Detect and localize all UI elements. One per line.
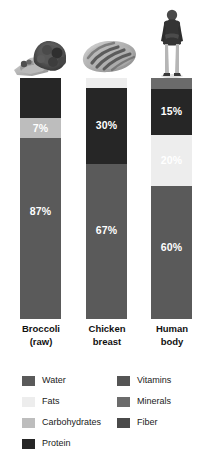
chart-legend: Water Fats Carbohydrates Protein Vitamin… [0,370,208,462]
category-label-line2: (raw) [8,335,74,348]
legend-item-fiber: Fiber [117,412,171,433]
legend-swatch-minerals [117,397,130,407]
category-label-line2: body [139,335,205,348]
bar-human-body: 15% 20% 60% [151,78,192,319]
legend-label: Minerals [137,397,171,406]
legend-swatch-water [22,376,35,386]
segment-label: 7% [33,123,49,134]
segment-label: 15% [161,106,183,117]
category-label-chicken-breast: Chicken breast [74,322,140,348]
segment-label: 87% [30,206,52,217]
legend-item-carbohydrates: Carbohydrates [22,412,101,433]
segment-broccoli-water: 87% [20,138,61,319]
legend-column-right: Vitamins Minerals Fiber [117,370,171,433]
segment-label: 67% [96,225,118,236]
legend-label: Water [42,376,66,385]
legend-swatch-carbohydrates [22,418,35,428]
legend-item-vitamins: Vitamins [117,370,171,391]
segment-chicken-water: 67% [86,164,127,319]
segment-human-protein: 15% [151,89,192,135]
legend-swatch-vitamins [117,376,130,386]
segment-label: 30% [96,120,118,131]
legend-label: Protein [42,439,71,448]
category-label-line1: Broccoli [8,322,74,335]
legend-swatch-fats [22,397,35,407]
bar-chicken-breast: 30% 67% [86,78,127,319]
legend-swatch-fiber [117,418,130,428]
legend-item-minerals: Minerals [117,391,171,412]
category-label-line1: Human [139,322,205,335]
segment-chicken-protein: 30% [86,88,127,164]
legend-item-protein: Protein [22,433,101,454]
legend-label: Fats [42,397,60,406]
segment-human-water: 60% [151,186,192,319]
legend-label: Fiber [137,418,158,427]
legend-swatch-protein [22,439,35,449]
segment-human-minerals [151,78,192,89]
segment-broccoli-protein [20,78,61,118]
segment-human-fats: 20% [151,135,192,187]
segment-label: 20% [161,155,183,166]
chicken-breast-photo [79,36,139,76]
segment-broccoli-carbohydrates: 7% [20,118,61,138]
legend-column-left: Water Fats Carbohydrates Protein [22,370,101,454]
segment-chicken-fats [86,78,127,88]
bar-broccoli: 7% 87% [20,78,61,319]
legend-label: Carbohydrates [42,418,101,427]
legend-item-fats: Fats [22,391,101,412]
category-label-line2: breast [74,335,140,348]
human-figure-photo [155,6,189,78]
category-label-line1: Chicken [74,322,140,335]
segment-label: 60% [161,242,183,253]
broccoli-photo [12,32,72,78]
category-label-broccoli: Broccoli (raw) [8,322,74,348]
category-label-human-body: Human body [139,322,205,348]
legend-label: Vitamins [137,376,171,385]
category-labels: Broccoli (raw) Chicken breast Human body [0,322,208,362]
stacked-bar-chart: 7% 87% 30% 67% 15% 20% 60% [0,78,208,319]
legend-item-water: Water [22,370,101,391]
subject-images-row [0,0,208,78]
